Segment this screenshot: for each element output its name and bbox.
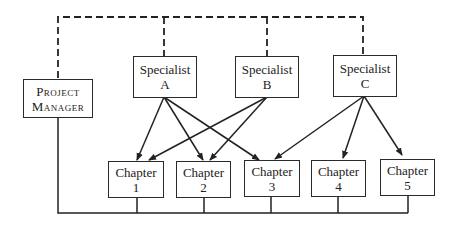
org-diagram: Project Manager Specialist A Specialist …	[0, 0, 457, 225]
chapter-4-label: Chapter	[318, 164, 359, 179]
specialist-b-label: Specialist	[242, 62, 293, 77]
chapter-5-number: 5	[404, 178, 411, 193]
dashed-supervision-lines	[58, 17, 363, 78]
chapter-2-box: Chapter 2	[176, 161, 231, 198]
specialist-c-label: Specialist	[340, 61, 391, 76]
chapter-3-label: Chapter	[251, 164, 292, 179]
chapter-1-box: Chapter 1	[108, 161, 164, 198]
project-manager-box: Project Manager	[23, 79, 93, 118]
chapter-1-label: Chapter	[115, 165, 156, 180]
specialist-a-box: Specialist A	[133, 56, 197, 98]
chapter-3-number: 3	[269, 179, 276, 194]
specialist-a-label: Specialist	[140, 62, 191, 77]
specialist-b-box: Specialist B	[235, 56, 299, 98]
assignment-arrows	[137, 96, 402, 160]
chapter-5-label: Chapter	[387, 163, 428, 178]
chapter-3-box: Chapter 3	[244, 160, 300, 197]
project-manager-label-2: Manager	[32, 99, 85, 114]
chapter-5-box: Chapter 5	[380, 159, 435, 196]
specialist-a-id: A	[160, 77, 169, 92]
chapter-1-number: 1	[133, 180, 140, 195]
specialist-b-id: B	[263, 77, 272, 92]
project-manager-label-1: Project	[36, 84, 80, 99]
chapter-4-box: Chapter 4	[311, 160, 366, 197]
chapter-2-label: Chapter	[183, 165, 224, 180]
specialist-c-id: C	[361, 76, 370, 91]
chapter-2-number: 2	[200, 180, 207, 195]
specialist-c-box: Specialist C	[333, 55, 397, 97]
chapter-4-number: 4	[335, 179, 342, 194]
